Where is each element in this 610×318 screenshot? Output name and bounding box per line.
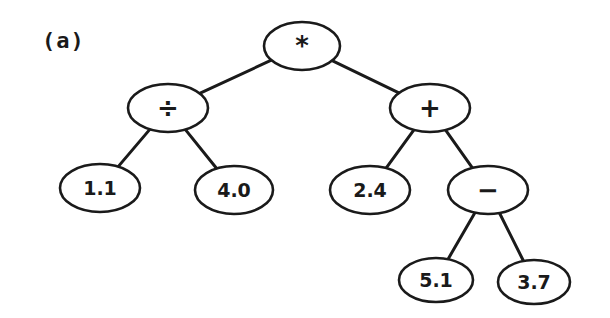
node-n40: 4.0 — [195, 166, 273, 214]
edge-root-div — [200, 60, 272, 93]
node-n11: 1.1 — [60, 164, 140, 212]
operand-label: 5.1 — [419, 269, 453, 291]
operand-label: 1.1 — [83, 177, 117, 199]
operand-label: 3.7 — [517, 271, 551, 293]
edge-div-n40 — [185, 130, 216, 169]
edge-minus-n51 — [448, 213, 475, 260]
expression-tree: *÷+1.14.02.4−5.13.7 — [0, 0, 610, 318]
node-root: * — [264, 22, 340, 70]
operator-label: − — [477, 175, 499, 205]
edge-root-plus — [332, 61, 399, 93]
operand-label: 4.0 — [217, 179, 251, 201]
edge-minus-n37 — [499, 213, 523, 261]
node-plus: + — [390, 84, 470, 132]
tree-nodes: *÷+1.14.02.4−5.13.7 — [60, 22, 570, 304]
edge-plus-n24 — [386, 130, 414, 168]
edge-plus-minus — [446, 130, 473, 168]
node-minus: − — [448, 166, 528, 214]
operand-label: 2.4 — [353, 179, 387, 201]
node-n37: 3.7 — [498, 260, 570, 304]
operator-label: + — [419, 93, 441, 123]
edge-div-n11 — [118, 129, 150, 166]
node-n51: 5.1 — [399, 258, 473, 302]
node-div: ÷ — [128, 84, 208, 132]
node-n24: 2.4 — [330, 166, 410, 214]
operator-label: * — [295, 31, 309, 61]
operator-label: ÷ — [157, 93, 179, 123]
